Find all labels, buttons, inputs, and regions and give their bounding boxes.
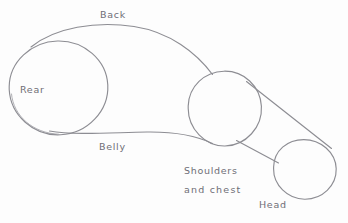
head-circle: [274, 140, 337, 200]
neck-upper-line: [247, 82, 332, 149]
belly-curve: [50, 131, 213, 144]
neck-lower-line: [237, 141, 279, 164]
label-back: Back: [100, 10, 126, 20]
label-belly: Belly: [99, 142, 126, 152]
label-rear: Rear: [20, 85, 45, 95]
shoulders-circle: [188, 71, 261, 146]
label-shoulders: Shoulders: [184, 166, 238, 176]
back-curve: [31, 25, 213, 75]
label-and-chest: and chest: [184, 185, 241, 195]
sketch-canvas: Back Rear Belly Shoulders and chest Head: [0, 0, 348, 223]
sketch-drawing: [0, 0, 348, 223]
label-head: Head: [259, 200, 287, 210]
